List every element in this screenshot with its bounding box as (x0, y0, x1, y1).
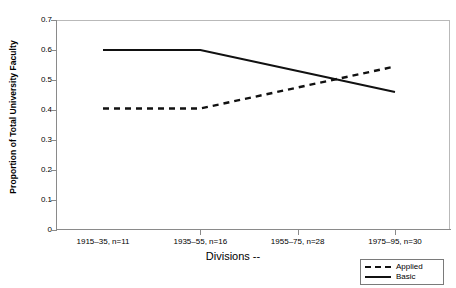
legend-swatch-dashed-line-icon (364, 262, 392, 272)
y-tick-label: 0.4 (26, 106, 52, 114)
legend-item-basic[interactable]: Basic (364, 272, 440, 282)
x-tick-label: 1915–35, n=11 (76, 237, 129, 246)
y-tick-mark (51, 170, 56, 171)
x-tick-label: 1975–95, n=30 (368, 237, 422, 246)
legend-label: Basic (392, 272, 416, 282)
y-tick-mark (51, 20, 56, 21)
legend-item-applied[interactable]: Applied (364, 262, 440, 272)
legend-label: Applied (392, 262, 423, 272)
y-tick-mark (51, 230, 56, 231)
y-axis-ticks: 0.70.60.50.40.30.20.10 (22, 0, 52, 288)
y-tick-mark (51, 140, 56, 141)
y-tick-label: 0 (26, 226, 52, 234)
y-tick-label: 0.1 (26, 196, 52, 204)
x-tick-label: 1955–75, n=28 (271, 237, 325, 246)
line-chart: Proportion of Total University Faculty 0… (0, 0, 456, 288)
y-tick-mark (51, 80, 56, 81)
y-tick-mark (51, 200, 56, 201)
y-tick-label: 0.2 (26, 166, 52, 174)
x-tick-mark (395, 230, 396, 235)
x-tick-mark (200, 230, 201, 235)
y-tick-label: 0.6 (26, 46, 52, 54)
y-tick-mark (51, 110, 56, 111)
x-tick-mark (298, 230, 299, 235)
legend-swatch-solid-line-icon (364, 272, 392, 282)
x-tick-label: 1935–55, n=16 (174, 237, 228, 246)
y-tick-mark (51, 50, 56, 51)
y-tick-label: 0.5 (26, 76, 52, 84)
chart-legend[interactable]: AppliedBasic (360, 259, 444, 285)
y-tick-label: 0.7 (26, 16, 52, 24)
plot-area (56, 20, 450, 230)
y-axis-title: Proportion of Total University Faculty (6, 2, 20, 232)
y-tick-label: 0.3 (26, 136, 52, 144)
